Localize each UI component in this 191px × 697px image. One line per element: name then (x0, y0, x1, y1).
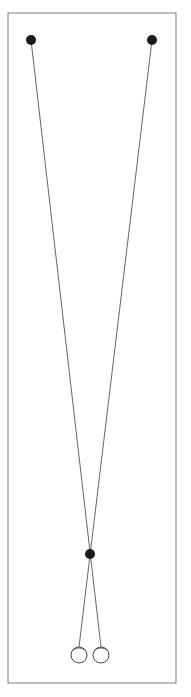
pendulum-diagram (0, 0, 191, 697)
pivot-dot (85, 549, 95, 559)
anchor-left-dot (26, 35, 36, 45)
frame (8, 13, 176, 683)
anchor-right-dot (147, 35, 157, 45)
